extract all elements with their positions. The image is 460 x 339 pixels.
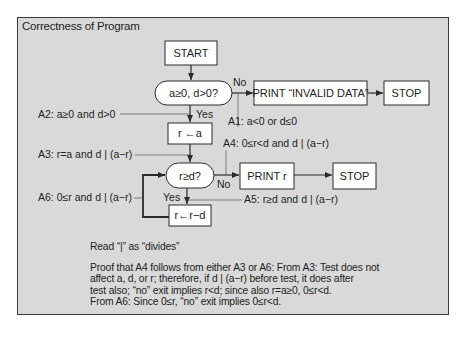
decision-input-valid-label: a≥0, d>0? — [169, 87, 218, 99]
test1-no-label: No — [233, 76, 247, 88]
proof-line: From A6: Since 0≤r, “no” exit implies 0≤… — [90, 296, 450, 308]
proof-line: test also; “no” exit implies r<d; since … — [90, 285, 450, 297]
stop-node-2: STOP — [333, 163, 376, 189]
proof-line: affect a, d, or r; therefore, if d | (a−… — [90, 273, 450, 285]
notes: Read “|” as “divides” Proof that A4 foll… — [90, 241, 450, 308]
stop-label-2: STOP — [340, 170, 370, 182]
decrement-label: r←r−d — [175, 209, 206, 221]
assertion-a1: A1: a<0 or d≤0 — [228, 115, 297, 127]
print-r-node: PRINT r — [240, 163, 294, 189]
assertion-a4: A4: 0≤r<d and d | (a−r) — [223, 137, 329, 149]
decision-input-valid: a≥0, d>0? — [155, 81, 232, 105]
note-proof: Proof that A4 follows from either A3 or … — [90, 262, 450, 308]
assign-r-node: r ←a — [168, 123, 212, 144]
print-invalid-label: PRINT “INVALID DATA” — [253, 87, 369, 99]
assertion-a6: A6: 0≤r and d | (a−r) — [38, 191, 132, 203]
test2-no-label: No — [217, 178, 231, 190]
print-r-label: PRINT r — [247, 170, 287, 182]
note-read-as: Read “|” as “divides” — [90, 241, 450, 253]
decision-loop-label: r≥d? — [179, 170, 201, 182]
test2-yes-label: Yes — [163, 191, 180, 203]
start-label: START — [173, 47, 208, 59]
decision-loop-test: r≥d? — [166, 163, 214, 188]
proof-line: Proof that A4 follows from either A3 or … — [90, 262, 450, 274]
assign-r-label: r ←a — [178, 127, 203, 139]
decrement-node: r←r−d — [169, 205, 211, 226]
assertion-a5: A5: r≥d and d | (a−r) — [244, 193, 338, 205]
print-invalid-node: PRINT “INVALID DATA” — [253, 81, 369, 105]
test1-yes-label: Yes — [196, 108, 213, 120]
assertion-a3: A3: r=a and d | (a−r) — [38, 148, 132, 160]
stop-node-1: STOP — [384, 81, 429, 105]
start-node: START — [165, 41, 217, 65]
stop-label-1: STOP — [392, 87, 422, 99]
assertion-a2: A2: a≥0 and d>0 — [38, 108, 115, 120]
